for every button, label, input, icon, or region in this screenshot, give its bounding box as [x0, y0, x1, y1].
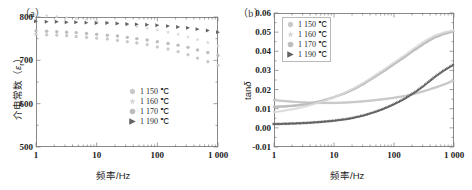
y-tick-label: 0.02	[238, 85, 271, 95]
panel-a-data-layer	[36, 17, 218, 147]
series-1190℃	[34, 19, 220, 34]
y-tick-label: 0.04	[238, 46, 271, 56]
hexagon-marker	[286, 20, 295, 29]
y-tick-label: 0.06	[238, 8, 271, 18]
right-triangle-marker	[286, 50, 295, 59]
legend-item-1150℃: 1 150 ℃	[128, 87, 169, 96]
legend-item-1160℃: 1 160 ℃	[128, 97, 169, 106]
legend-label: 1 190 ℃	[140, 117, 169, 126]
x-tick-label: 10	[77, 150, 117, 160]
legend-item-1190℃: 1 190 ℃	[128, 117, 169, 126]
right-triangle-marker	[128, 117, 137, 126]
x-tick-label: 1	[16, 150, 56, 160]
y-tick-label: 0.00	[238, 123, 271, 133]
panel-a: （a） 介电常数（εr） 频率/Hz 5006007008001101001 0…	[0, 0, 236, 190]
x-tick-label: 1	[254, 150, 294, 160]
dielectric-properties-figure: （a） 介电常数（εr） 频率/Hz 5006007008001101001 0…	[0, 0, 472, 190]
panel-a-x-axis-title: 频率/Hz	[96, 168, 130, 182]
x-tick-label: 100	[137, 150, 177, 160]
legend-label: 1 170 ℃	[298, 40, 327, 49]
legend-label: 1 160 ℃	[298, 30, 327, 39]
x-tick-label: 10	[314, 150, 354, 160]
panel-b-x-axis-title: 频率/Hz	[330, 168, 364, 182]
star-marker	[128, 97, 137, 106]
y-tick-label: 0.01	[238, 104, 271, 114]
panel-a-plot-area	[36, 17, 218, 147]
y-tick-label: 800	[0, 12, 33, 22]
y-tick-label: 0.03	[238, 65, 271, 75]
x-tick-label: 1 000	[198, 150, 238, 160]
legend: 1 150 ℃1 160 ℃1 170 ℃1 190 ℃	[128, 87, 169, 126]
legend-item-1170℃: 1 170 ℃	[286, 40, 327, 49]
circle-marker	[286, 40, 295, 49]
y-tick-label: 700	[0, 55, 33, 65]
legend-item-1170℃: 1 170 ℃	[128, 107, 169, 116]
x-tick-label: 1 000	[434, 150, 472, 160]
legend-item-1160℃: 1 160 ℃	[286, 30, 327, 39]
legend-label: 1 170 ℃	[140, 107, 169, 116]
star-marker	[286, 30, 295, 39]
hexagon-marker	[128, 87, 137, 96]
y-tick-label: 0.05	[238, 27, 271, 37]
series-1190℃	[273, 64, 455, 126]
legend-item-1190℃: 1 190 ℃	[286, 50, 327, 59]
y-tick-label: 600	[0, 99, 33, 109]
x-tick-label: 100	[374, 150, 414, 160]
legend-label: 1 150 ℃	[140, 87, 169, 96]
legend-item-1150℃: 1 150 ℃	[286, 20, 327, 29]
circle-marker	[128, 107, 137, 116]
legend-label: 1 150 ℃	[298, 20, 327, 29]
legend-label: 1 160 ℃	[140, 97, 169, 106]
panel-b: （b） tanδ 频率/Hz -0.010.000.010.020.030.04…	[236, 0, 472, 190]
legend-label: 1 190 ℃	[298, 50, 327, 59]
legend: 1 150 ℃1 160 ℃1 170 ℃1 190 ℃	[282, 17, 331, 62]
